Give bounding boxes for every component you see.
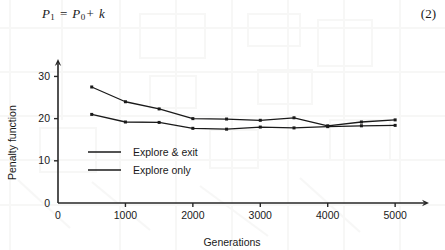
- equation-number: (2): [421, 6, 436, 22]
- x-tick-label: 0: [55, 209, 61, 221]
- series-marker: [259, 119, 262, 122]
- series-marker: [225, 118, 228, 121]
- equation-row: P1 = P0+ k (2): [0, 4, 445, 32]
- x-axis-title: Generations: [203, 236, 260, 248]
- equation-lhs-subscript: 1: [50, 12, 55, 22]
- series-marker: [293, 116, 296, 119]
- y-axis-title: Penalty function: [6, 105, 18, 180]
- y-tick-label: 20: [38, 112, 50, 124]
- y-tick-label: 0: [44, 197, 50, 209]
- series-marker: [360, 121, 363, 124]
- x-tick-label: 1000: [114, 209, 138, 221]
- x-tick-label: 2000: [181, 209, 205, 221]
- equation-plus: +: [86, 6, 96, 21]
- series-marker: [158, 107, 161, 110]
- equation-rhs-subscript: 0: [81, 12, 86, 22]
- series-marker: [259, 126, 262, 129]
- equation-rhs: P: [72, 6, 80, 21]
- penalty-function-chart: 0102030 010002000300040005000 Explore & …: [0, 50, 445, 250]
- series-marker: [360, 124, 363, 127]
- series-marker: [124, 121, 127, 124]
- x-tick-label: 5000: [383, 209, 407, 221]
- series-line-1: [92, 114, 395, 129]
- series-marker: [191, 127, 194, 130]
- x-tick-label: 3000: [249, 209, 273, 221]
- x-tick-label: 4000: [316, 209, 340, 221]
- equation-equals: =: [59, 6, 69, 21]
- series-marker: [90, 85, 93, 88]
- series-marker: [394, 124, 397, 127]
- y-axis: 0102030: [38, 59, 61, 209]
- series-layer: [90, 85, 396, 130]
- series-marker: [326, 125, 329, 128]
- series-marker: [293, 126, 296, 129]
- equation-formula: P1 = P0+ k: [42, 6, 105, 22]
- series-marker: [124, 100, 127, 103]
- series-marker: [158, 121, 161, 124]
- series-marker: [394, 118, 397, 121]
- legend-label-1: Explore only: [133, 164, 192, 176]
- chart-canvas: 0102030 010002000300040005000 Explore & …: [0, 50, 445, 250]
- legend-label-0: Explore & exit: [133, 146, 198, 158]
- series-marker: [191, 117, 194, 120]
- chart-legend: Explore & exitExplore only: [88, 146, 198, 176]
- y-tick-label: 30: [38, 70, 50, 82]
- y-tick-label: 10: [38, 154, 50, 166]
- equation-term-k: k: [99, 6, 105, 21]
- series-line-0: [92, 87, 395, 126]
- series-marker: [225, 128, 228, 131]
- series-marker: [90, 113, 93, 116]
- x-axis: 010002000300040005000: [55, 200, 429, 221]
